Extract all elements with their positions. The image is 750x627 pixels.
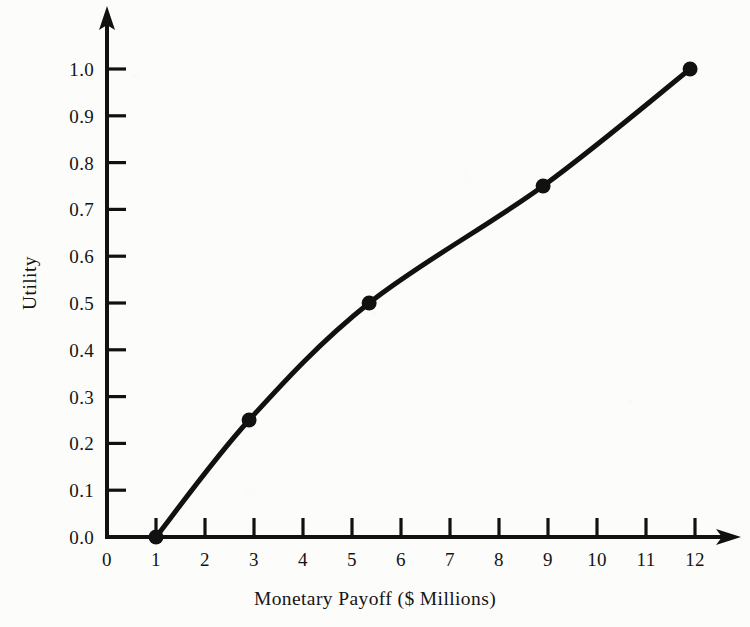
y-tick-label: 0.0 xyxy=(42,528,94,547)
x-tick-label: 5 xyxy=(347,550,357,569)
y-tick-label: 0.5 xyxy=(42,294,94,313)
plot-area xyxy=(0,0,750,627)
utility-curve-line xyxy=(156,69,690,537)
x-tick-label: 3 xyxy=(249,550,259,569)
x-tick-label: 8 xyxy=(494,550,504,569)
data-point-marker-1 xyxy=(242,413,257,428)
x-tick-marks xyxy=(156,518,695,537)
y-tick-label: 0.7 xyxy=(42,200,94,219)
x-tick-label: 1 xyxy=(151,550,161,569)
y-tick-marks xyxy=(107,69,126,490)
x-tick-label: 7 xyxy=(445,550,455,569)
x-tick-label: 4 xyxy=(298,550,308,569)
y-tick-label: 0.9 xyxy=(42,106,94,125)
x-tick-label: 2 xyxy=(200,550,210,569)
data-point-marker-4 xyxy=(683,62,698,77)
y-tick-label: 0.3 xyxy=(42,387,94,406)
x-tick-label: 0 xyxy=(102,550,112,569)
axes xyxy=(99,6,741,545)
x-axis-title: Monetary Payoff ($ Millions) xyxy=(0,588,750,610)
x-tick-label: 6 xyxy=(396,550,406,569)
utility-curve-figure: 0.00.10.20.30.40.50.60.70.80.91.0 012345… xyxy=(0,0,750,627)
x-tick-label: 12 xyxy=(685,550,705,569)
data-point-marker-2 xyxy=(362,296,377,311)
y-tick-label: 0.4 xyxy=(42,340,94,359)
y-tick-label: 0.2 xyxy=(42,434,94,453)
x-tick-label: 9 xyxy=(543,550,553,569)
y-tick-label: 0.1 xyxy=(42,481,94,500)
y-tick-label: 0.8 xyxy=(42,153,94,172)
y-tick-label: 0.6 xyxy=(42,247,94,266)
y-axis-title: Utility xyxy=(19,238,41,328)
y-tick-label: 1.0 xyxy=(42,60,94,79)
x-tick-label: 11 xyxy=(637,550,656,569)
data-point-marker-0 xyxy=(149,530,164,545)
data-point-markers xyxy=(149,62,698,545)
x-tick-label: 10 xyxy=(587,550,607,569)
data-point-marker-3 xyxy=(536,179,551,194)
